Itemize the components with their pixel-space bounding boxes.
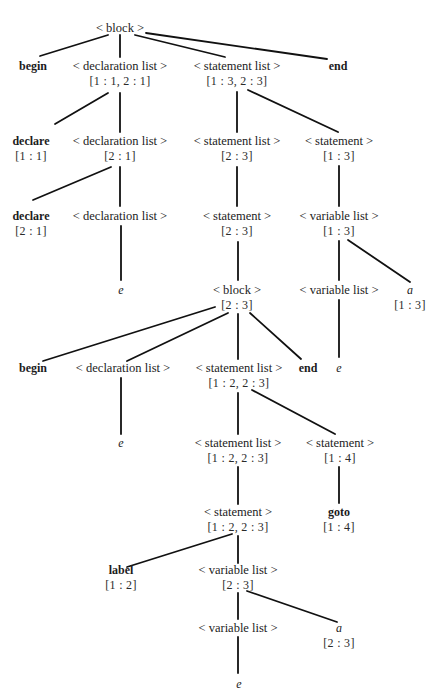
- tree-node-n7: < statement list > [2 : 3]: [194, 134, 281, 164]
- node-label: < block >: [96, 21, 144, 36]
- node-label: < declaration list >: [73, 209, 167, 224]
- tree-edge-n19-n24: [252, 390, 335, 434]
- node-attribute: [2 : 1]: [12, 224, 49, 239]
- tree-node-n0: < block >: [96, 21, 144, 36]
- tree-node-n29: < variable list >: [198, 621, 277, 636]
- tree-node-n13: e: [118, 283, 123, 298]
- tree-node-n9: declare [2 : 1]: [12, 209, 49, 239]
- tree-node-n18: < declaration list >: [76, 361, 170, 376]
- tree-node-n20: end: [299, 361, 318, 376]
- tree-node-n4: end: [329, 59, 348, 74]
- node-label: < statement list >: [195, 436, 282, 451]
- node-label: < declaration list >: [73, 134, 167, 149]
- node-label: < statement >: [305, 134, 373, 149]
- tree-edges: [0, 0, 436, 698]
- tree-node-n1: begin: [19, 59, 47, 74]
- tree-node-n21: e: [336, 361, 341, 376]
- node-label: a: [394, 283, 425, 298]
- tree-node-n10: < declaration list >: [73, 209, 167, 224]
- node-attribute: [2 : 3]: [198, 578, 277, 593]
- node-attribute: [1 : 2, 2 : 3]: [196, 376, 283, 391]
- tree-node-n3: < statement list > [1 : 3, 2 : 3]: [194, 59, 281, 89]
- tree-node-n28: < variable list > [2 : 3]: [198, 563, 277, 593]
- node-label: begin: [19, 361, 47, 376]
- node-attribute: [2 : 3]: [213, 298, 261, 313]
- tree-edge-n0-n4: [146, 33, 327, 59]
- node-label: < statement list >: [194, 134, 281, 149]
- node-label: < variable list >: [299, 209, 378, 224]
- tree-edge-n14-n20: [250, 313, 301, 359]
- tree-edge-n3-n8: [248, 90, 338, 132]
- node-attribute: [1 : 4]: [323, 520, 354, 535]
- tree-node-n22: e: [118, 436, 123, 451]
- node-attribute: [1 : 2]: [105, 578, 136, 593]
- node-label: < declaration list >: [73, 59, 167, 74]
- node-label: e: [118, 436, 123, 451]
- node-attribute: [1 : 1]: [12, 149, 49, 164]
- node-label: end: [299, 361, 318, 376]
- tree-edge-n14-n17: [43, 307, 215, 361]
- node-label: < variable list >: [299, 283, 378, 298]
- tree-node-n27: label [1 : 2]: [105, 563, 136, 593]
- node-attribute: [1 : 2, 2 : 3]: [204, 520, 272, 535]
- node-label: a: [323, 621, 354, 636]
- node-label: declare: [12, 134, 49, 149]
- node-label: < block >: [213, 283, 261, 298]
- node-label: < statement list >: [196, 361, 283, 376]
- tree-node-n23: < statement list > [1 : 2, 2 : 3]: [195, 436, 282, 466]
- tree-node-n30: a [2 : 3]: [323, 621, 354, 651]
- node-label: < statement >: [306, 436, 374, 451]
- node-label: end: [329, 59, 348, 74]
- node-attribute: [1 : 4]: [306, 451, 374, 466]
- node-label: e: [118, 283, 123, 298]
- tree-node-n24: < statement > [1 : 4]: [306, 436, 374, 466]
- node-label: < statement >: [204, 505, 272, 520]
- tree-edge-n0-n1: [40, 35, 108, 56]
- tree-node-n16: a [1 : 3]: [394, 283, 425, 313]
- node-attribute: [2 : 3]: [203, 224, 271, 239]
- tree-edge-n12-n16: [348, 240, 410, 282]
- tree-node-n6: < declaration list > [2 : 1]: [73, 134, 167, 164]
- node-label: < variable list >: [198, 621, 277, 636]
- tree-edge-n2-n5: [55, 93, 108, 124]
- node-label: e: [236, 677, 241, 692]
- tree-node-n25: < statement > [1 : 2, 2 : 3]: [204, 505, 272, 535]
- node-attribute: [1 : 1, 2 : 1]: [73, 74, 167, 89]
- node-attribute: [1 : 2, 2 : 3]: [195, 451, 282, 466]
- tree-edge-n28-n30: [247, 591, 337, 622]
- tree-node-n26: goto [1 : 4]: [323, 505, 354, 535]
- tree-edge-n14-n18: [127, 313, 228, 361]
- node-label: < statement >: [203, 209, 271, 224]
- tree-node-n31: e: [236, 677, 241, 692]
- tree-node-n17: begin: [19, 361, 47, 376]
- tree-node-n2: < declaration list > [1 : 1, 2 : 1]: [73, 59, 167, 89]
- node-label: goto: [323, 505, 354, 520]
- node-attribute: [2 : 3]: [194, 149, 281, 164]
- node-attribute: [1 : 3]: [305, 149, 373, 164]
- node-label: < declaration list >: [76, 361, 170, 376]
- node-attribute: [1 : 3, 2 : 3]: [194, 74, 281, 89]
- node-label: begin: [19, 59, 47, 74]
- tree-node-n11: < statement > [2 : 3]: [203, 209, 271, 239]
- tree-node-n8: < statement > [1 : 3]: [305, 134, 373, 164]
- node-label: < statement list >: [194, 59, 281, 74]
- node-label: declare: [12, 209, 49, 224]
- tree-node-n14: < block > [2 : 3]: [213, 283, 261, 313]
- node-attribute: [2 : 3]: [323, 636, 354, 651]
- node-label: < variable list >: [198, 563, 277, 578]
- node-attribute: [1 : 3]: [394, 298, 425, 313]
- node-label: label: [105, 563, 136, 578]
- node-attribute: [1 : 3]: [299, 224, 378, 239]
- tree-node-n12: < variable list > [1 : 3]: [299, 209, 378, 239]
- tree-edge-n6-n9: [33, 167, 111, 200]
- node-attribute: [2 : 1]: [73, 149, 167, 164]
- tree-node-n19: < statement list > [1 : 2, 2 : 3]: [196, 361, 283, 391]
- tree-node-n15: < variable list >: [299, 283, 378, 298]
- tree-node-n5: declare [1 : 1]: [12, 134, 49, 164]
- parse-tree-diagram: < block > begin < declaration list > [1 …: [0, 0, 436, 698]
- node-label: e: [336, 361, 341, 376]
